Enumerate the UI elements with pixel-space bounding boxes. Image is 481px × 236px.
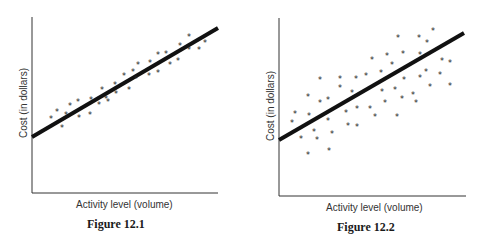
data-point-star: * bbox=[97, 101, 101, 110]
data-point-star: * bbox=[60, 124, 64, 133]
data-point-star: * bbox=[326, 96, 330, 105]
data-point-star: * bbox=[402, 76, 406, 85]
data-point-star: * bbox=[68, 102, 72, 111]
data-point-star: * bbox=[417, 34, 421, 43]
data-point-star: * bbox=[148, 59, 152, 68]
data-point-star: * bbox=[134, 75, 138, 84]
data-point-star: * bbox=[424, 68, 428, 77]
scatter-points: ****************************************… bbox=[290, 27, 452, 160]
data-point-star: * bbox=[127, 86, 131, 95]
data-point-star: * bbox=[428, 83, 432, 92]
data-point-star: * bbox=[76, 98, 80, 107]
data-point-star: * bbox=[401, 50, 405, 59]
data-point-star: * bbox=[330, 130, 334, 139]
y-axis-label: Cost (in dollars) bbox=[265, 71, 276, 141]
data-point-star: * bbox=[64, 111, 68, 120]
data-point-star: * bbox=[88, 111, 92, 120]
figure-12-2: ****************************************… bbox=[265, 18, 466, 234]
data-point-star: * bbox=[346, 122, 350, 131]
data-point-star: * bbox=[89, 96, 93, 105]
regression-line bbox=[279, 33, 464, 140]
data-point-star: * bbox=[114, 90, 118, 99]
data-point-star: * bbox=[187, 33, 191, 42]
data-point-star: * bbox=[418, 74, 422, 83]
data-point-star: * bbox=[168, 61, 172, 70]
data-point-star: * bbox=[395, 113, 399, 122]
data-point-star: * bbox=[383, 99, 387, 108]
data-point-star: * bbox=[326, 117, 330, 126]
data-point-star: * bbox=[393, 86, 397, 95]
data-point-star: * bbox=[364, 72, 368, 81]
figure-caption: Figure 12.2 bbox=[337, 220, 395, 234]
data-point-star: * bbox=[418, 51, 422, 60]
data-point-star: * bbox=[156, 51, 160, 60]
data-point-star: * bbox=[344, 109, 348, 118]
data-point-star: * bbox=[164, 50, 168, 59]
data-point-star: * bbox=[440, 57, 444, 66]
data-point-star: * bbox=[379, 69, 383, 78]
regression-line bbox=[32, 28, 218, 137]
data-point-star: * bbox=[318, 76, 322, 85]
data-point-star: * bbox=[176, 57, 180, 66]
data-point-star: * bbox=[136, 61, 140, 70]
figure-caption: Figure 12.1 bbox=[87, 217, 145, 231]
data-point-star: * bbox=[307, 112, 311, 121]
data-point-star: * bbox=[290, 119, 294, 128]
data-point-star: * bbox=[293, 110, 297, 119]
data-point-star: * bbox=[156, 69, 160, 78]
data-point-star: * bbox=[327, 147, 331, 156]
data-point-star: * bbox=[203, 39, 207, 48]
figures-canvas: ******************************** Cost (i… bbox=[0, 0, 481, 236]
x-axis-label: Activity level (volume) bbox=[326, 202, 423, 213]
data-point-star: * bbox=[425, 39, 429, 48]
data-point-star: * bbox=[448, 59, 452, 68]
data-point-star: * bbox=[380, 88, 384, 97]
x-axis-label: Activity level (volume) bbox=[76, 199, 173, 210]
data-point-star: * bbox=[354, 75, 358, 84]
data-point-star: * bbox=[355, 105, 359, 114]
data-point-star: * bbox=[370, 56, 374, 65]
data-point-star: * bbox=[448, 82, 452, 91]
data-point-star: * bbox=[396, 34, 400, 43]
data-point-star: * bbox=[306, 151, 310, 160]
data-point-star: * bbox=[338, 75, 342, 84]
data-point-star: * bbox=[187, 46, 191, 55]
y-axis-label: Cost (in dollars) bbox=[18, 68, 29, 138]
data-point-star: * bbox=[368, 105, 372, 114]
data-point-star: * bbox=[438, 71, 442, 80]
data-point-star: * bbox=[113, 81, 117, 90]
data-point-star: * bbox=[197, 46, 201, 55]
data-point-star: * bbox=[49, 115, 53, 124]
data-point-star: * bbox=[338, 84, 342, 93]
data-point-star: * bbox=[77, 114, 81, 123]
data-point-star: * bbox=[318, 99, 322, 108]
data-point-star: * bbox=[299, 135, 303, 144]
data-point-star: * bbox=[431, 27, 435, 36]
data-point-star: * bbox=[350, 89, 354, 98]
data-point-star: * bbox=[390, 61, 394, 70]
data-point-star: * bbox=[373, 113, 377, 122]
data-point-star: * bbox=[414, 99, 418, 108]
data-point-star: * bbox=[55, 108, 59, 117]
data-point-star: * bbox=[306, 93, 310, 102]
data-point-star: * bbox=[122, 72, 126, 81]
data-point-star: * bbox=[178, 42, 182, 51]
data-point-star: * bbox=[400, 95, 404, 104]
data-point-star: * bbox=[147, 72, 151, 81]
data-point-star: * bbox=[315, 136, 319, 145]
figure-12-1: ******************************** Cost (i… bbox=[18, 17, 218, 231]
data-point-star: * bbox=[106, 98, 110, 107]
data-point-star: * bbox=[385, 52, 389, 61]
data-point-star: * bbox=[355, 123, 359, 132]
data-point-star: * bbox=[100, 86, 104, 95]
